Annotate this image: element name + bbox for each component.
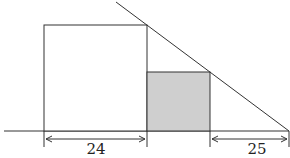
shaded-rectangle [147, 72, 210, 131]
large-square [44, 25, 147, 131]
geometry-diagram: 24 25 [0, 0, 290, 158]
label-25: 25 [247, 140, 266, 158]
diagram-svg: 24 25 [0, 0, 290, 158]
label-24: 24 [86, 140, 105, 158]
